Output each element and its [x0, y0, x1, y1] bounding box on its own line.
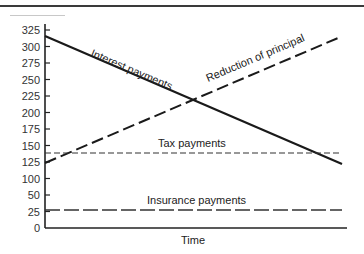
x-axis-title: Time: [181, 234, 205, 246]
insurance-payments-label: Insurance payments: [147, 194, 247, 206]
y-tick-label: 25: [28, 206, 40, 218]
y-tick-label: 275: [22, 57, 40, 69]
y-tick-labels: 325 300 275 250 225 200 175 150 125 100 …: [22, 24, 40, 234]
y-tick-label: 325: [22, 24, 40, 36]
principal-reduction-label: Reduction of principal: [204, 31, 306, 83]
y-tick-label: 225: [22, 90, 40, 102]
y-tick-label: 125: [22, 156, 40, 168]
interest-payments-label: Interest payments: [89, 47, 175, 92]
y-tick-label: 150: [22, 140, 40, 152]
tax-payments-label: Tax payments: [158, 137, 226, 149]
y-tick-label: 175: [22, 123, 40, 135]
y-tick-label: 300: [22, 41, 40, 53]
y-tick-label: 0: [34, 222, 40, 234]
line-chart: 325 300 275 250 225 200 175 150 125 100 …: [0, 0, 364, 254]
y-tick-label: 250: [22, 74, 40, 86]
y-tick-label: 200: [22, 107, 40, 119]
y-tick-label: 100: [22, 173, 40, 185]
y-tick-label: 50: [28, 189, 40, 201]
